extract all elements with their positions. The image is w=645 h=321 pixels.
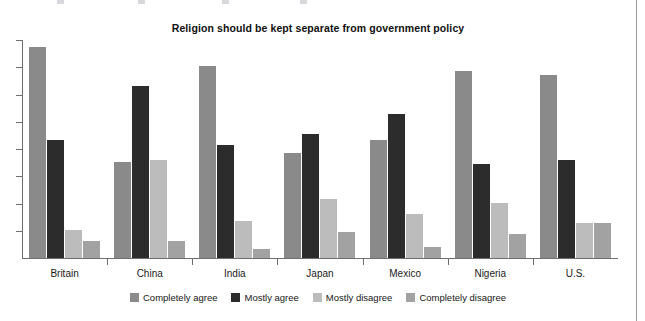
bars	[107, 40, 192, 258]
bar-group-india: India	[192, 40, 277, 258]
bars	[533, 40, 618, 258]
bar	[47, 140, 64, 258]
x-axis-category-label: Mexico	[363, 268, 448, 279]
chart-title: Religion should be kept separate from go…	[0, 22, 636, 34]
bar	[302, 134, 319, 258]
bar	[509, 234, 526, 258]
bar	[370, 140, 387, 258]
x-axis-separator-tick	[107, 259, 108, 265]
bar-group-mexico: Mexico	[363, 40, 448, 258]
bar	[406, 214, 423, 258]
x-axis-separator-tick	[192, 259, 193, 265]
bar	[558, 160, 575, 258]
plot-area: BritainChinaIndiaJapanMexicoNigeriaU.S.	[22, 40, 618, 259]
bar	[114, 162, 131, 258]
bar	[594, 223, 611, 258]
legend-swatch-icon	[313, 293, 322, 302]
bar	[491, 203, 508, 258]
bar	[284, 153, 301, 258]
x-axis-separator-tick	[448, 259, 449, 265]
page-edge-rule	[636, 0, 637, 321]
bar-group-china: China	[107, 40, 192, 258]
bar	[150, 160, 167, 258]
bars	[363, 40, 448, 258]
bar	[473, 164, 490, 258]
legend-item-completely-agree[interactable]: Completely agree	[130, 292, 217, 303]
bar	[455, 71, 472, 258]
chart-legend: Completely agreeMostly agreeMostly disag…	[0, 292, 636, 303]
x-axis-line	[22, 258, 618, 259]
bar	[540, 75, 557, 258]
bar-group-britain: Britain	[22, 40, 107, 258]
bar	[424, 247, 441, 258]
scan-artifact-marks	[0, 0, 645, 8]
bar-group-us: U.S.	[533, 40, 618, 258]
x-axis-category-label: India	[192, 268, 277, 279]
legend-label: Mostly disagree	[326, 292, 393, 303]
legend-item-mostly-agree[interactable]: Mostly agree	[231, 292, 298, 303]
bars	[277, 40, 362, 258]
legend-label: Completely agree	[143, 292, 217, 303]
bar	[168, 241, 185, 258]
legend-swatch-icon	[406, 293, 415, 302]
bar	[132, 86, 149, 258]
x-axis-separator-tick	[277, 259, 278, 265]
bars	[448, 40, 533, 258]
bar	[83, 241, 100, 258]
x-axis-separator-tick	[363, 259, 364, 265]
bar-group-nigeria: Nigeria	[448, 40, 533, 258]
bar	[320, 199, 337, 258]
legend-swatch-icon	[130, 293, 139, 302]
bars	[192, 40, 277, 258]
legend-item-completely-disagree[interactable]: Completely disagree	[406, 292, 506, 303]
x-axis-category-label: Britain	[22, 268, 107, 279]
bar	[338, 232, 355, 258]
chart-page: Religion should be kept separate from go…	[0, 0, 645, 321]
bar-group-japan: Japan	[277, 40, 362, 258]
bar	[29, 47, 46, 258]
bar	[199, 66, 216, 258]
legend-label: Mostly agree	[244, 292, 298, 303]
legend-swatch-icon	[231, 293, 240, 302]
x-axis-category-label: Nigeria	[448, 268, 533, 279]
legend-item-mostly-disagree[interactable]: Mostly disagree	[313, 292, 393, 303]
bar	[253, 249, 270, 258]
bar	[576, 223, 593, 258]
bar	[388, 114, 405, 258]
bar	[65, 230, 82, 258]
legend-label: Completely disagree	[419, 292, 506, 303]
x-axis-category-label: Japan	[277, 268, 362, 279]
bar	[235, 221, 252, 258]
x-axis-separator-tick	[533, 259, 534, 265]
bar	[217, 145, 234, 258]
bars	[22, 40, 107, 258]
x-axis-category-label: China	[107, 268, 192, 279]
x-axis-category-label: U.S.	[533, 268, 618, 279]
